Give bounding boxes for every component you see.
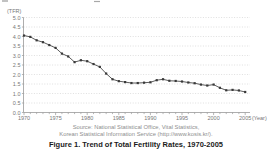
x-tick-label: 1990	[144, 115, 156, 121]
data-point-marker	[48, 44, 50, 46]
y-tick-label: 4.5	[13, 24, 21, 30]
y-tick-label: 2.0	[13, 72, 21, 78]
x-tick-label: 1975	[49, 115, 61, 121]
data-point-marker	[181, 80, 183, 82]
figure-panel: 0.00.51.01.52.02.53.03.54.04.55.01970197…	[0, 0, 272, 158]
source-text-line2: Korean Statistical Information Service (…	[59, 131, 213, 137]
data-point-marker	[244, 91, 246, 93]
x-tick-label: 1980	[81, 115, 93, 121]
data-point-marker	[67, 55, 69, 57]
y-tick-label: 3.5	[13, 43, 21, 49]
y-tick-label: 4.0	[13, 34, 21, 40]
data-point-marker	[200, 83, 202, 85]
data-point-marker	[23, 34, 25, 36]
x-tick-label: 2000	[207, 115, 219, 121]
data-point-marker	[194, 82, 196, 84]
fertility-chart: 0.00.51.01.52.02.53.03.54.04.55.01970197…	[0, 0, 272, 158]
data-point-marker	[29, 36, 31, 38]
data-point-marker	[86, 60, 88, 62]
y-tick-label: 1.0	[13, 91, 21, 97]
y-tick-label: 3.0	[13, 53, 21, 59]
data-point-marker	[36, 39, 38, 41]
data-point-marker	[143, 82, 145, 84]
data-point-marker	[162, 78, 164, 80]
plot-area: 0.00.51.01.52.02.53.03.54.04.55.01970197…	[13, 15, 251, 122]
x-tick-label: 2005	[239, 115, 251, 121]
data-point-marker	[73, 61, 75, 63]
data-point-marker	[238, 89, 240, 91]
source-text-line1: Source: National Statistical Office, Vit…	[73, 124, 200, 130]
data-point-marker	[137, 82, 139, 84]
data-point-marker	[213, 83, 215, 85]
data-point-marker	[124, 81, 126, 83]
data-point-marker	[61, 53, 63, 55]
data-point-marker	[156, 79, 158, 81]
data-point-marker	[80, 59, 82, 61]
data-point-marker	[55, 47, 57, 49]
x-tick-label: 1985	[113, 115, 125, 121]
data-point-marker	[99, 66, 101, 68]
data-point-marker	[175, 80, 177, 82]
data-point-marker	[168, 80, 170, 82]
data-point-marker	[111, 78, 113, 80]
y-axis-unit-label: (TFR)	[7, 8, 22, 14]
data-point-marker	[149, 81, 151, 83]
figure-caption: Figure 1. Trend of Total Fertility Rates…	[49, 140, 223, 149]
data-point-marker	[219, 87, 221, 89]
x-tick-label: 1995	[176, 115, 188, 121]
data-point-marker	[42, 41, 44, 43]
data-point-marker	[130, 82, 132, 84]
data-point-marker	[105, 72, 107, 74]
y-tick-label: 2.5	[13, 62, 21, 68]
data-point-marker	[118, 80, 120, 82]
data-point-marker	[92, 63, 94, 65]
data-point-marker	[225, 89, 227, 91]
trend-line	[24, 36, 245, 93]
x-axis-unit-label: (Year)	[252, 115, 267, 121]
data-point-marker	[231, 89, 233, 91]
y-tick-label: 0.5	[13, 100, 21, 106]
y-tick-label: 5.0	[13, 15, 21, 21]
data-point-marker	[206, 84, 208, 86]
y-tick-label: 1.5	[13, 81, 21, 87]
data-point-marker	[187, 81, 189, 83]
x-tick-label: 1970	[18, 115, 30, 121]
